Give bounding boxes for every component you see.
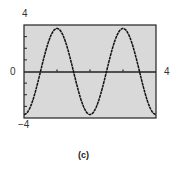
- plot-area: [0, 0, 176, 170]
